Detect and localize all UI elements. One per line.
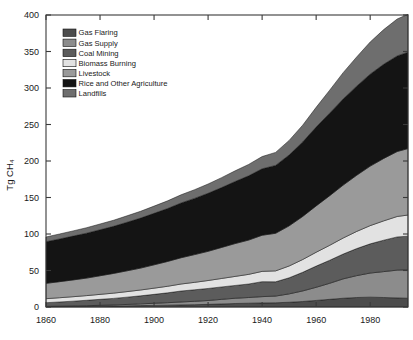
legend-swatch-biomass-burning bbox=[63, 59, 76, 66]
y-tick-label: 200 bbox=[24, 156, 39, 166]
y-tick-label: 350 bbox=[24, 47, 39, 57]
legend-swatch-livestock bbox=[63, 69, 76, 76]
legend-item: Gas Flaring bbox=[63, 28, 118, 37]
legend-swatch-landfills bbox=[63, 90, 76, 97]
legend-item: Biomass Burning bbox=[63, 59, 136, 68]
legend-item: Livestock bbox=[63, 69, 110, 78]
y-tick-label: 50 bbox=[29, 266, 39, 276]
legend-item: Gas Supply bbox=[63, 39, 118, 48]
y-tick-label: 300 bbox=[24, 83, 39, 93]
x-tick-label: 1920 bbox=[198, 315, 218, 325]
chart-canvas: 0501001502002503003504001860188019001920… bbox=[0, 0, 413, 340]
legend-swatch-gas-supply bbox=[63, 39, 76, 46]
x-tick-label: 1880 bbox=[90, 315, 110, 325]
y-tick-label: 400 bbox=[24, 10, 39, 20]
legend-swatch-rice-and-other-agriculture bbox=[63, 80, 76, 87]
y-tick-label: 100 bbox=[24, 229, 39, 239]
y-tick-label: 250 bbox=[24, 120, 39, 130]
y-tick-label: 150 bbox=[24, 193, 39, 203]
legend-swatch-coal-mining bbox=[63, 49, 76, 56]
legend-label: Gas Flaring bbox=[79, 28, 118, 37]
legend-swatch-gas-flaring bbox=[63, 29, 76, 36]
legend-item: Coal Mining bbox=[63, 49, 119, 58]
x-tick-label: 1900 bbox=[144, 315, 164, 325]
legend-item: Rice and Other Agriculture bbox=[63, 79, 168, 88]
x-tick-label: 1980 bbox=[360, 315, 380, 325]
legend-item: Landfills bbox=[63, 89, 107, 98]
x-tick-label: 1940 bbox=[252, 315, 272, 325]
y-tick-label: 0 bbox=[34, 302, 39, 312]
y-axis-title: Tg CH₄ bbox=[4, 159, 15, 190]
legend-label: Livestock bbox=[79, 69, 111, 78]
x-tick-label: 1860 bbox=[36, 315, 56, 325]
legend-label: Coal Mining bbox=[79, 49, 119, 58]
legend-label: Biomass Burning bbox=[79, 59, 136, 68]
legend-label: Rice and Other Agriculture bbox=[79, 79, 168, 88]
x-tick-label: 1960 bbox=[306, 315, 326, 325]
legend-label: Landfills bbox=[79, 89, 107, 98]
legend-label: Gas Supply bbox=[79, 39, 118, 48]
methane-emissions-stacked-area-figure: 0501001502002503003504001860188019001920… bbox=[0, 0, 413, 340]
